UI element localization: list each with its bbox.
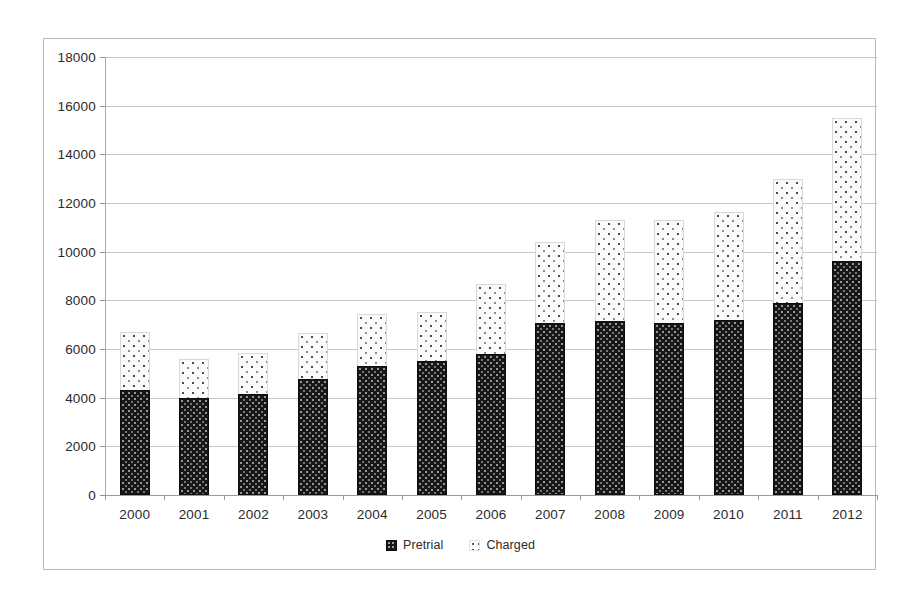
legend-item-charged[interactable]: Charged bbox=[469, 538, 535, 552]
chart-frame: 0200040006000800010000120001400016000180… bbox=[43, 38, 876, 570]
dark-dotted-swatch-icon bbox=[386, 540, 397, 551]
x-tick-mark bbox=[402, 495, 403, 500]
y-axis-label-8000: 8000 bbox=[65, 293, 96, 308]
bar-group[interactable] bbox=[476, 57, 506, 495]
x-axis-label-2005: 2005 bbox=[416, 507, 447, 522]
x-axis-label-2002: 2002 bbox=[238, 507, 269, 522]
bar-segment-charged[interactable] bbox=[179, 359, 209, 398]
x-axis-label-2001: 2001 bbox=[179, 507, 210, 522]
plot-area: 0200040006000800010000120001400016000180… bbox=[105, 57, 877, 495]
bar-group[interactable] bbox=[238, 57, 268, 495]
bar-segment-charged[interactable] bbox=[535, 242, 565, 323]
bar-segment-charged[interactable] bbox=[417, 312, 447, 361]
bar-group[interactable] bbox=[773, 57, 803, 495]
chart-plot-wrapper: 0200040006000800010000120001400016000180… bbox=[44, 39, 877, 571]
x-tick-mark bbox=[699, 495, 700, 500]
bar-segment-charged[interactable] bbox=[595, 220, 625, 321]
bar-group[interactable] bbox=[357, 57, 387, 495]
x-axis-label-2008: 2008 bbox=[594, 507, 625, 522]
x-axis-label-2010: 2010 bbox=[713, 507, 744, 522]
y-axis-line bbox=[105, 57, 106, 495]
bar-group[interactable] bbox=[832, 57, 862, 495]
x-tick-mark bbox=[164, 495, 165, 500]
bar-segment-pretrial[interactable] bbox=[595, 321, 625, 495]
y-axis-label-0: 0 bbox=[88, 488, 96, 503]
bar-segment-pretrial[interactable] bbox=[535, 323, 565, 495]
bar-segment-pretrial[interactable] bbox=[417, 361, 447, 495]
x-axis-label-2007: 2007 bbox=[535, 507, 566, 522]
light-dotted-swatch-icon bbox=[469, 540, 480, 551]
x-tick-mark bbox=[343, 495, 344, 500]
legend-label: Charged bbox=[486, 538, 535, 552]
x-axis-label-2009: 2009 bbox=[654, 507, 685, 522]
x-tick-mark bbox=[877, 495, 878, 500]
x-axis-label-2012: 2012 bbox=[832, 507, 863, 522]
bar-segment-charged[interactable] bbox=[476, 284, 506, 354]
bar-segment-pretrial[interactable] bbox=[179, 398, 209, 495]
bar-segment-charged[interactable] bbox=[238, 353, 268, 394]
bar-group[interactable] bbox=[595, 57, 625, 495]
x-axis-label-2003: 2003 bbox=[297, 507, 328, 522]
y-axis-label-2000: 2000 bbox=[65, 439, 96, 454]
bar-segment-charged[interactable] bbox=[832, 118, 862, 261]
bar-segment-charged[interactable] bbox=[773, 179, 803, 303]
bar-group[interactable] bbox=[298, 57, 328, 495]
x-tick-mark bbox=[521, 495, 522, 500]
y-axis-label-18000: 18000 bbox=[57, 50, 96, 65]
bar-segment-pretrial[interactable] bbox=[357, 366, 387, 495]
bar-segment-pretrial[interactable] bbox=[238, 394, 268, 495]
x-axis-label-2004: 2004 bbox=[357, 507, 388, 522]
bar-group[interactable] bbox=[714, 57, 744, 495]
y-axis-label-4000: 4000 bbox=[65, 390, 96, 405]
bar-group[interactable] bbox=[179, 57, 209, 495]
x-tick-mark bbox=[461, 495, 462, 500]
chart-legend: PretrialCharged bbox=[44, 538, 877, 552]
bar-group[interactable] bbox=[120, 57, 150, 495]
bar-segment-pretrial[interactable] bbox=[120, 390, 150, 495]
x-tick-mark bbox=[580, 495, 581, 500]
y-axis-label-16000: 16000 bbox=[57, 98, 96, 113]
bar-segment-charged[interactable] bbox=[120, 332, 150, 390]
bar-segment-pretrial[interactable] bbox=[654, 323, 684, 495]
x-axis-label-2000: 2000 bbox=[119, 507, 150, 522]
bar-group[interactable] bbox=[535, 57, 565, 495]
bar-segment-pretrial[interactable] bbox=[298, 379, 328, 495]
x-axis-label-2006: 2006 bbox=[476, 507, 507, 522]
bar-segment-charged[interactable] bbox=[298, 333, 328, 379]
x-tick-mark bbox=[224, 495, 225, 500]
x-axis-label-2011: 2011 bbox=[773, 507, 803, 522]
y-axis-label-14000: 14000 bbox=[57, 147, 96, 162]
bar-segment-pretrial[interactable] bbox=[773, 303, 803, 495]
y-axis-label-12000: 12000 bbox=[57, 196, 96, 211]
y-axis-label-10000: 10000 bbox=[57, 244, 96, 259]
bar-segment-charged[interactable] bbox=[714, 212, 744, 320]
x-tick-mark bbox=[105, 495, 106, 500]
y-axis-label-6000: 6000 bbox=[65, 342, 96, 357]
x-tick-mark bbox=[639, 495, 640, 500]
bar-group[interactable] bbox=[654, 57, 684, 495]
x-tick-mark bbox=[283, 495, 284, 500]
bar-group[interactable] bbox=[417, 57, 447, 495]
bar-segment-charged[interactable] bbox=[654, 220, 684, 323]
x-tick-mark bbox=[758, 495, 759, 500]
bar-segment-pretrial[interactable] bbox=[714, 320, 744, 495]
x-axis-line bbox=[105, 495, 877, 496]
legend-label: Pretrial bbox=[403, 538, 443, 552]
legend-item-pretrial[interactable]: Pretrial bbox=[386, 538, 443, 552]
bar-segment-pretrial[interactable] bbox=[832, 261, 862, 495]
x-tick-mark bbox=[818, 495, 819, 500]
bar-segment-pretrial[interactable] bbox=[476, 354, 506, 495]
bar-segment-charged[interactable] bbox=[357, 314, 387, 366]
